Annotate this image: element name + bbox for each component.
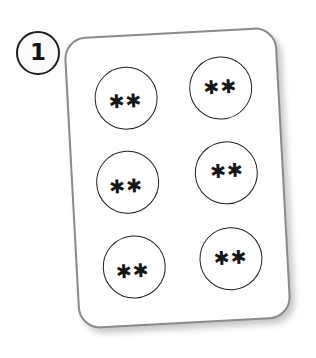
step-number-label: 1 xyxy=(30,41,46,64)
card-body: ✱✱ ✱✱ ✱✱ ✱✱ ✱✱ ✱✱ xyxy=(63,26,291,329)
pack-hole-5: ✱✱ xyxy=(101,233,167,299)
pack-hole-1: ✱✱ xyxy=(93,64,159,130)
asterisk-pair-icon: ✱✱ xyxy=(213,247,248,268)
asterisk-pair-icon: ✱✱ xyxy=(203,76,238,97)
step-number-badge: 1 xyxy=(16,31,60,75)
asterisk-pair-icon: ✱✱ xyxy=(115,260,150,281)
illustration-canvas: 1 ✱✱ ✱✱ ✱✱ ✱✱ ✱✱ xyxy=(0,0,316,358)
pack-hole-3: ✱✱ xyxy=(95,149,161,215)
pack-hole-4: ✱✱ xyxy=(193,139,259,205)
pack-hole-2: ✱✱ xyxy=(187,54,253,120)
asterisk-pair-icon: ✱✱ xyxy=(209,160,244,181)
pack-hole-grid: ✱✱ ✱✱ ✱✱ ✱✱ ✱✱ ✱✱ xyxy=(79,47,275,309)
asterisk-pair-icon: ✱✱ xyxy=(108,90,143,111)
pack-hole-6: ✱✱ xyxy=(198,225,264,291)
asterisk-pair-icon: ✱✱ xyxy=(109,175,144,196)
blister-pack-card: ✱✱ ✱✱ ✱✱ ✱✱ ✱✱ ✱✱ xyxy=(63,26,291,329)
